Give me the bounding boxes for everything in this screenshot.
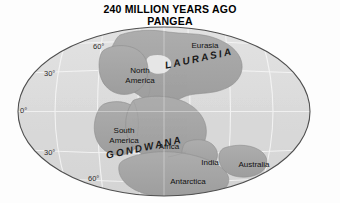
landmass-north-america — [99, 46, 148, 95]
map-canvas — [0, 0, 340, 203]
map-page: 240 MILLION YEARS AGO PANGEA — [0, 0, 340, 203]
laurasia-inland-sea — [146, 55, 171, 74]
pangea-map: 60° 30° 0° 30° 60° Eurasia NorthAmerica … — [0, 0, 340, 203]
